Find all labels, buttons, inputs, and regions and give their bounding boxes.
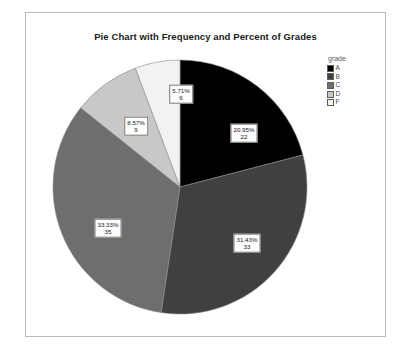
- slice-label-b: 31.43%33: [234, 234, 261, 253]
- legend: grade A B C D F: [327, 55, 373, 107]
- legend-label-f: F: [336, 99, 340, 106]
- chart-title: Pie Chart with Frequency and Percent of …: [26, 31, 385, 42]
- legend-title: grade: [327, 55, 373, 62]
- legend-item-f[interactable]: F: [327, 98, 373, 107]
- legend-label-a: A: [336, 65, 340, 72]
- legend-swatch-d: [327, 91, 334, 98]
- slice-label-c: 33.33%35: [95, 219, 122, 238]
- slice-count-d: 9: [127, 126, 145, 133]
- legend-label-b: B: [336, 74, 340, 81]
- slice-count-c: 35: [98, 228, 119, 235]
- slice-label-a: 20.95%22: [231, 124, 258, 143]
- slice-count-a: 22: [234, 133, 255, 140]
- legend-item-a[interactable]: A: [327, 64, 373, 73]
- legend-item-d[interactable]: D: [327, 90, 373, 99]
- legend-label-d: D: [336, 91, 341, 98]
- slice-percent-b: 31.43%: [237, 236, 258, 243]
- legend-swatch-a: [327, 65, 334, 72]
- slice-percent-a: 20.95%: [234, 126, 255, 133]
- slice-label-d: 8.57%9: [124, 117, 148, 136]
- legend-item-b[interactable]: B: [327, 73, 373, 82]
- slice-count-b: 33: [237, 243, 258, 250]
- slice-percent-f: 5.71%: [172, 87, 190, 94]
- legend-label-c: C: [336, 82, 341, 89]
- slice-percent-d: 8.57%: [127, 119, 145, 126]
- legend-swatch-c: [327, 82, 334, 89]
- pie-slice-c[interactable]: [53, 108, 180, 313]
- legend-swatch-f: [327, 99, 334, 106]
- legend-swatch-b: [327, 73, 334, 80]
- slice-percent-c: 33.33%: [98, 221, 119, 228]
- slice-count-f: 6: [172, 94, 190, 101]
- legend-item-c[interactable]: C: [327, 81, 373, 90]
- slice-label-f: 5.71%6: [169, 85, 193, 104]
- chart-frame: Pie Chart with Frequency and Percent of …: [25, 12, 386, 337]
